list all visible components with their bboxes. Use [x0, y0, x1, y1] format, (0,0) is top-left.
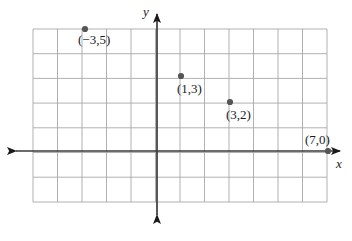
plot-canvas: [0, 0, 352, 241]
point-label-7-0: (7,0): [305, 133, 330, 146]
data-point[interactable]: [227, 99, 233, 105]
data-point[interactable]: [178, 73, 184, 79]
grid-lines: [33, 29, 327, 202]
point-label-3-2: (3,2): [226, 108, 251, 121]
coordinate-plane-figure: y x (−3,5) (1,3) (3,2) (7,0): [0, 0, 352, 241]
y-axis-label: y: [143, 5, 149, 18]
plotted-points: [82, 26, 331, 154]
point-label-neg3-5: (−3,5): [78, 33, 110, 46]
point-label-1-3: (1,3): [177, 82, 202, 95]
data-point[interactable]: [325, 148, 331, 154]
x-axis-label: x: [336, 157, 342, 170]
